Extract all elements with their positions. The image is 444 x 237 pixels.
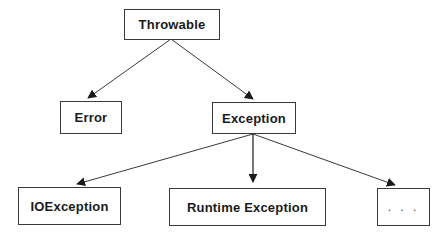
ellipsis-label: . . .	[388, 200, 420, 214]
node-throwable: Throwable	[124, 9, 220, 40]
node-exception: Exception	[212, 102, 296, 134]
node-label: Runtime Exception	[187, 200, 308, 215]
edge-throwable-exception	[171, 39, 253, 99]
node-label: Throwable	[139, 17, 206, 32]
node-runtime-exception: Runtime Exception	[169, 188, 326, 226]
node-label: Exception	[222, 111, 286, 126]
edge-exception-ioexception	[77, 134, 253, 184]
node-label: Error	[75, 110, 108, 125]
node-label: IOException	[30, 199, 108, 214]
node-ioexception: IOException	[18, 187, 121, 225]
edge-throwable-error	[88, 39, 171, 98]
node-more: . . .	[377, 188, 430, 226]
node-error: Error	[60, 101, 122, 134]
exception-hierarchy-diagram: Throwable Error Exception IOException Ru…	[0, 0, 444, 237]
edge-exception-more	[253, 134, 395, 185]
